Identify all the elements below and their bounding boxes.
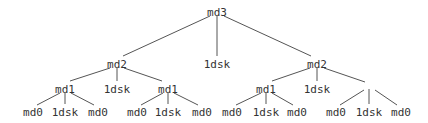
tree-diagram: md3md21dskmd2md11dskmd1md11dskmd01dskmd0… [0, 0, 428, 123]
tree-edge [224, 16, 311, 56]
tree-node-label: md1 [256, 83, 276, 96]
tree-node-label: md2 [107, 58, 127, 71]
tree-edge [124, 68, 162, 81]
tree-node-label: 1dsk [155, 106, 182, 119]
tree-edge [70, 68, 110, 81]
tree-node-label: md1 [55, 83, 75, 96]
tree-node-label: md2 [307, 58, 327, 71]
tree-node-label: md0 [23, 106, 43, 119]
tree-node-label: md0 [326, 106, 346, 119]
tree-edge [340, 90, 364, 105]
tree-node-label: 1dsk [204, 58, 231, 71]
tree-node-label: md3 [207, 6, 227, 19]
tree-edge [272, 68, 310, 81]
tree-node-label: md0 [127, 106, 147, 119]
tree-node-label: md0 [222, 106, 242, 119]
tree-edge [123, 16, 210, 56]
tree-node-label: md0 [287, 106, 307, 119]
tree-node-label: 1dsk [356, 106, 383, 119]
tree-node-label: 1dsk [52, 106, 79, 119]
tree-node-label: md1 [158, 83, 178, 96]
tree-edge [324, 68, 365, 82]
tree-node-label: 1dsk [304, 83, 331, 96]
tree-node-label: 1dsk [253, 106, 280, 119]
tree-node-label: md0 [192, 106, 212, 119]
tree-edge [375, 90, 397, 105]
tree-node-label: md0 [88, 106, 108, 119]
tree-node-label: 1dsk [104, 83, 131, 96]
tree-node-label: md0 [391, 106, 411, 119]
